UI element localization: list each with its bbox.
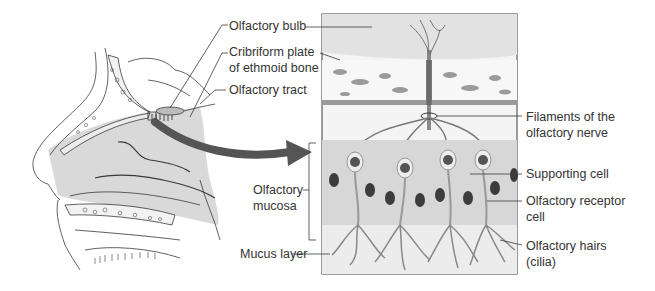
head-section xyxy=(33,48,220,270)
label-receptor-line1: Olfactory receptor xyxy=(526,194,625,208)
label-olfactory-mucosa-line1: Olfactory xyxy=(253,183,303,197)
olfactory-diagram: Olfactory bulb Cribriform plate of ethmo… xyxy=(0,0,655,291)
label-olfactory-bulb: Olfactory bulb xyxy=(229,19,306,33)
label-olfactory-mucosa-line2: mucosa xyxy=(253,199,297,213)
label-olfactory-hairs-line2: (cilia) xyxy=(526,255,556,269)
arrow-head-icon xyxy=(286,140,312,166)
label-olfactory-hairs-line1: Olfactory hairs xyxy=(526,239,607,253)
detail-panel xyxy=(322,14,518,274)
label-olfactory-tract: Olfactory tract xyxy=(229,83,307,97)
label-cribriform-plate-line1: Cribriform plate xyxy=(229,45,314,59)
label-cribriform-plate-line2: of ethmoid bone xyxy=(229,61,319,75)
label-filaments-line1: Filaments of the xyxy=(526,110,615,124)
label-mucus-layer: Mucus layer xyxy=(240,247,307,261)
label-filaments-line2: olfactory nerve xyxy=(526,126,608,140)
label-receptor-line2: cell xyxy=(526,210,545,224)
label-supporting-cell: Supporting cell xyxy=(526,167,609,181)
